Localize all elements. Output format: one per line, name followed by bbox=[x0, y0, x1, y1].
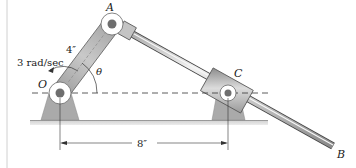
label-pivot-distance: 8″ bbox=[137, 138, 147, 149]
label-crank-length: 4″ bbox=[66, 44, 76, 55]
label-point-O: O bbox=[38, 78, 47, 91]
label-point-A: A bbox=[105, 1, 114, 14]
label-theta: θ bbox=[96, 66, 102, 77]
mechanism-diagram: A B C O θ 4″ 3 rad/sec 8″ bbox=[0, 0, 356, 168]
label-point-B: B bbox=[336, 148, 345, 161]
ground-base bbox=[30, 120, 268, 125]
label-point-C: C bbox=[234, 67, 243, 80]
label-angular-velocity: 3 rad/sec bbox=[17, 57, 64, 68]
pin-A bbox=[101, 13, 123, 35]
